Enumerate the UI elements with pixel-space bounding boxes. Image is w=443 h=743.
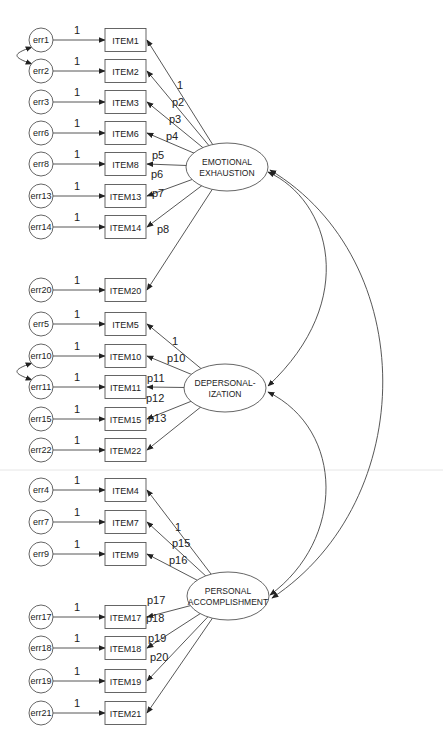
error-label: err11	[31, 382, 51, 392]
loading-label: p17	[147, 594, 165, 606]
node-layer: 11ITEM1err11p2ITEM2err21p3ITEM3err31p4IT…	[29, 24, 269, 725]
factor-covariance-arc	[268, 172, 326, 386]
error-weight-label: 1	[74, 697, 80, 709]
loading-label: p16	[169, 554, 187, 566]
error-label: err21	[30, 708, 51, 718]
item-label: ITEM18	[110, 644, 142, 654]
item-label: ITEM11	[110, 383, 141, 393]
loading-label: p13	[148, 412, 166, 424]
error-weight-label: 1	[74, 117, 80, 129]
loading-label: p18	[146, 612, 164, 624]
error-weight-label: 1	[74, 474, 80, 486]
loading-label: p3	[169, 113, 181, 125]
item-label: ITEM10	[110, 352, 142, 362]
covariance-layer	[17, 47, 383, 598]
error-label: err15	[30, 414, 51, 424]
loading-label: p20	[150, 651, 168, 663]
loading-label: p4	[166, 130, 178, 142]
loading-label: 1	[175, 521, 181, 533]
error-weight-label: 1	[74, 55, 80, 67]
error-weight-label: 1	[74, 538, 80, 550]
error-weight-label: 1	[74, 24, 80, 36]
error-weight-label: 1	[74, 601, 80, 613]
item-label: ITEM15	[110, 415, 142, 425]
error-label: err2	[33, 66, 49, 76]
error-label: err1	[33, 35, 49, 45]
error-weight-label: 1	[74, 148, 80, 160]
error-label: err8	[33, 159, 49, 169]
latent-factor-dp[interactable]	[184, 364, 266, 412]
error-label: err20	[30, 285, 51, 295]
error-label: err7	[33, 517, 49, 527]
loading-label: p5	[152, 149, 164, 161]
factor-covariance-arc	[270, 170, 383, 598]
error-label: err9	[33, 549, 49, 559]
item-label: ITEM13	[110, 192, 142, 202]
factor-label: EMOTIONAL	[202, 157, 252, 167]
factor-covariance-arc	[268, 392, 326, 595]
factor-label: DEPERSONAL-	[195, 378, 256, 388]
item-label: ITEM3	[112, 98, 139, 108]
loading-label: p11	[147, 372, 165, 384]
item-label: ITEM9	[112, 550, 139, 560]
loading-label: 1	[177, 79, 183, 91]
loading-label: p8	[157, 223, 169, 235]
error-weight-label: 1	[74, 86, 80, 98]
error-weight-label: 1	[74, 371, 80, 383]
item-label: ITEM7	[112, 518, 139, 528]
error-label: err13	[30, 191, 51, 201]
loading-path	[147, 164, 187, 166]
item-label: ITEM6	[112, 129, 139, 139]
loading-label: p7	[152, 187, 164, 199]
loading-label: p10	[167, 352, 185, 364]
error-weight-label: 1	[74, 180, 80, 192]
loading-label: p15	[172, 537, 190, 549]
item-label: ITEM2	[112, 67, 139, 77]
loading-label: p12	[146, 392, 164, 404]
latent-factor-pa[interactable]	[187, 572, 269, 620]
loading-label: p2	[172, 96, 184, 108]
factor-label: ACCOMPLISHMENT	[188, 597, 268, 607]
item-label: ITEM21	[110, 709, 142, 719]
item-label: ITEM4	[112, 486, 139, 496]
item-label: ITEM8	[112, 160, 139, 170]
item-label: ITEM17	[110, 613, 142, 623]
error-weight-label: 1	[74, 308, 80, 320]
item-label: ITEM22	[110, 446, 142, 456]
item-label: ITEM20	[110, 286, 142, 296]
error-label: err5	[33, 319, 49, 329]
error-weight-label: 1	[74, 403, 80, 415]
loading-label: p6	[151, 168, 163, 180]
error-label: err4	[33, 485, 49, 495]
item-label: ITEM1	[112, 36, 139, 46]
error-weight-label: 1	[74, 632, 80, 644]
error-covariance-arc	[17, 47, 32, 64]
error-weight-label: 1	[74, 274, 80, 286]
error-label: err18	[30, 643, 51, 653]
error-covariance-arc	[17, 363, 32, 380]
factor-label: IZATION	[209, 389, 242, 399]
error-label: err22	[30, 445, 51, 455]
item-label: ITEM5	[112, 320, 139, 330]
error-label: err10	[30, 351, 51, 361]
item-label: ITEM19	[110, 677, 142, 687]
latent-factor-ee[interactable]	[186, 143, 268, 191]
error-label: err19	[30, 676, 51, 686]
error-weight-label: 1	[74, 665, 80, 677]
error-weight-label: 1	[74, 340, 80, 352]
error-weight-label: 1	[74, 506, 80, 518]
loading-label: p19	[148, 632, 166, 644]
error-label: err14	[30, 222, 51, 232]
loading-path	[147, 189, 213, 290]
item-label: ITEM14	[110, 223, 142, 233]
loading-label: 1	[172, 335, 178, 347]
error-label: err3	[33, 97, 49, 107]
factor-label: PERSONAL	[205, 586, 252, 596]
error-weight-label: 1	[74, 434, 80, 446]
factor-label: EXHAUSTION	[199, 168, 254, 178]
loading-path	[147, 616, 208, 681]
error-label: err17	[30, 612, 51, 622]
sem-path-diagram: 11ITEM1err11p2ITEM2err21p3ITEM3err31p4IT…	[0, 0, 443, 743]
error-label: err6	[33, 128, 49, 138]
error-weight-label: 1	[74, 211, 80, 223]
